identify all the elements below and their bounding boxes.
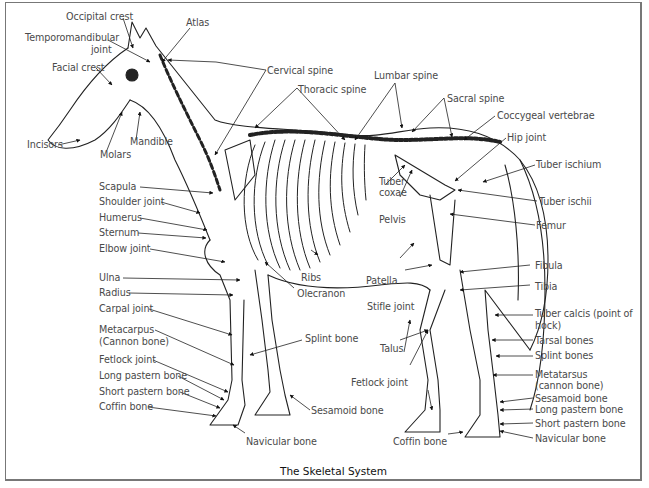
label-metacarpus-line1: Metacarpus [99,324,154,335]
label-navicular-bone-hind: Navicular bone [535,433,606,444]
label-humerus: Humerus [99,212,142,223]
label-carpal-joint: Carpal joint [99,303,153,314]
label-long-pastern-bone-hind: Long pastern bone [535,404,623,415]
label-atlas: Atlas [186,17,209,28]
label-olecranon: Olecranon [297,288,345,299]
label-tuber-coxae-line1: Tuber [379,176,405,187]
label-sesamoid-bone-fore: Sesamoid bone [311,405,384,416]
label-short-pastern-bone-fore: Short pastern bone [99,386,189,397]
label-temporomandibular-joint-line1: Temporomandibular [25,32,119,43]
label-metatarsus-line2: (cannon bone) [535,380,603,391]
label-tibia: Tibia [535,281,557,292]
label-short-pastern-bone-hind: Short pastern bone [535,418,625,429]
label-sesamoid-bone-hind: Sesamoid bone [535,393,608,404]
label-lumbar-spine: Lumbar spine [374,70,438,81]
label-tuber-coxae-line2: coxae [379,187,407,198]
label-patella: Patella [366,275,397,286]
label-mandible: Mandible [130,136,173,147]
label-metacarpus-line2: (Cannon bone) [99,336,169,347]
label-coffin-bone-hind: Coffin bone [393,436,447,447]
label-coffin-bone-fore: Coffin bone [99,401,153,412]
label-incisors: Incisors [27,139,63,150]
label-coccygeal-vertebrae: Coccygeal vertebrae [497,110,595,121]
label-facial-crest: Facial crest [52,62,105,73]
label-long-pastern-bone-fore: Long pastern bone [99,370,187,381]
label-fetlock-joint-fore: Fetlock joint [99,354,156,365]
label-ribs: Ribs [301,272,321,283]
label-pelvis: Pelvis [379,214,406,225]
label-splint-bones: Splint bones [535,350,593,361]
label-shoulder-joint: Shoulder joint [99,196,164,207]
label-elbow-joint: Elbow joint [99,243,151,254]
label-tuber-ischium: Tuber ischium [536,159,601,170]
label-hip-joint: Hip joint [507,132,546,143]
label-tuber-ischii: Tuber ischii [539,196,592,207]
label-temporomandibular-joint-line2: joint [91,44,112,55]
label-metatarsus-line1: Metatarsus [535,369,587,380]
label-radius: Radius [99,287,131,298]
label-tarsal-bones: Tarsal bones [535,335,593,346]
label-fetlock-joint-hind: Fetlock joint [351,377,408,388]
label-tuber-calcis-line1: Tuber calcis (point of [535,308,633,319]
label-cervical-spine: Cervical spine [267,65,333,76]
label-navicular-bone-fore: Navicular bone [246,436,317,447]
label-splint-bone-fore: Splint bone [305,333,358,344]
label-sacral-spine: Sacral spine [447,93,504,104]
label-ulna: Ulna [99,272,120,283]
label-thoracic-spine: Thoracic spine [298,84,366,95]
label-sternum: Sternum [99,227,139,238]
figure-caption: The Skeletal System [280,465,387,477]
label-scapula: Scapula [99,181,136,192]
label-stifle-joint: Stifle joint [367,301,414,312]
label-talus: Talus [380,343,403,354]
label-occipital-crest: Occipital crest [66,11,133,22]
label-tuber-calcis-line2: hock) [535,320,561,331]
label-molars: Molars [100,149,131,160]
label-femur: Femur [536,220,566,231]
label-fibula: Fibula [535,260,563,271]
